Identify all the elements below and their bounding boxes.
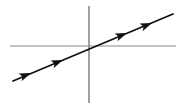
figure-background bbox=[0, 0, 183, 108]
figure-container: Graph of a straight line through the ori… bbox=[0, 0, 183, 108]
line-graph-figure: Graph of a straight line through the ori… bbox=[0, 0, 183, 108]
